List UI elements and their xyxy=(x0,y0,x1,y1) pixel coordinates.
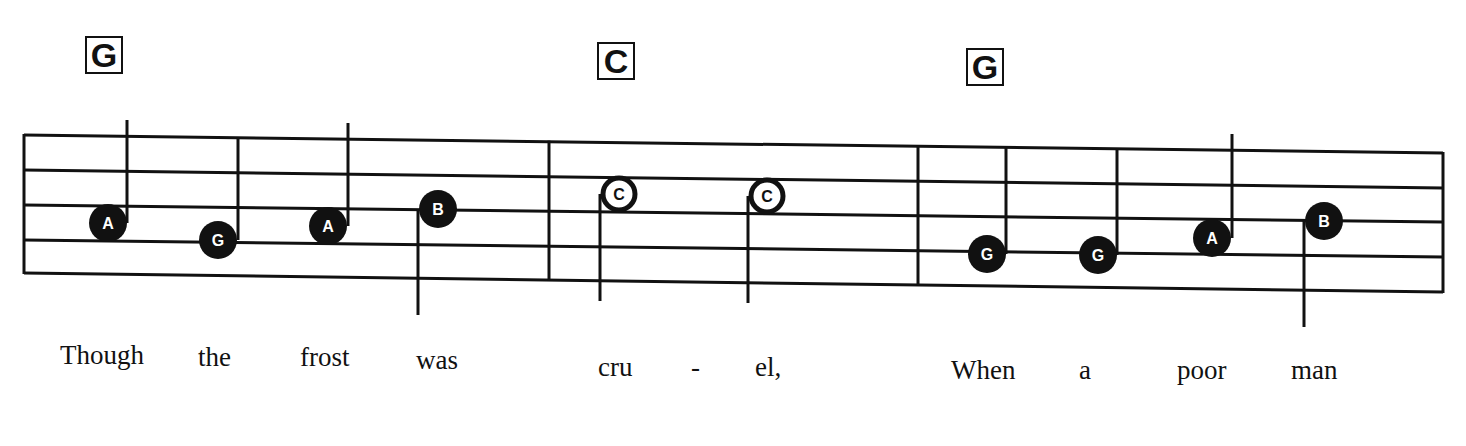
note-label: B xyxy=(432,201,444,218)
note-a: A xyxy=(89,120,127,242)
note-label: C xyxy=(761,188,773,205)
note-g: G xyxy=(1079,150,1117,274)
lyric-syllable: a xyxy=(1079,355,1091,386)
note-label: A xyxy=(102,215,114,232)
lyric-syllable: frost xyxy=(300,342,350,373)
music-staff: AGABCCGGAB xyxy=(0,0,1466,446)
lyric-syllable: cru xyxy=(598,352,632,383)
note-label: A xyxy=(1206,230,1218,247)
notes: AGABCCGGAB xyxy=(89,120,1343,327)
lyric-syllable: el, xyxy=(755,352,781,383)
note-g: G xyxy=(968,148,1006,273)
lyric-syllable: - xyxy=(691,352,700,383)
lyric-syllable: Though xyxy=(60,340,144,371)
lyric-syllable: poor xyxy=(1177,355,1227,386)
note-a: A xyxy=(1193,134,1232,257)
note-label: G xyxy=(981,246,993,263)
note-g: G xyxy=(199,138,238,259)
note-label: B xyxy=(1318,213,1330,230)
lyric-syllable: the xyxy=(198,342,231,373)
chord-symbol-c: C xyxy=(597,42,635,80)
lyric-syllable: was xyxy=(416,345,458,376)
lyric-syllable: When xyxy=(951,355,1015,386)
note-label: C xyxy=(613,186,625,203)
note-a: A xyxy=(309,123,348,245)
lyric-syllable: man xyxy=(1291,355,1338,386)
chord-symbol-g: G xyxy=(966,48,1004,86)
staff-line xyxy=(24,273,1443,292)
note-label: G xyxy=(212,232,224,249)
note-label: A xyxy=(322,218,334,235)
note-b: B xyxy=(1304,202,1343,327)
chord-symbol-g: G xyxy=(85,36,123,74)
note-b: B xyxy=(418,190,457,315)
note-label: G xyxy=(1092,247,1104,264)
